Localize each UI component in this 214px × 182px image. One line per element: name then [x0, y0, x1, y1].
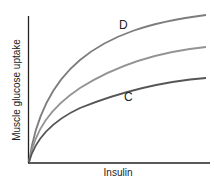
curve-d: [29, 15, 206, 162]
curve-d-label: D: [119, 18, 128, 32]
x-axis-label: Insulin: [104, 167, 133, 178]
y-axis-label: Muscle glucose uptake: [11, 39, 22, 141]
curve-middle: [29, 47, 206, 162]
curve-c-label: C: [124, 90, 133, 104]
chart: D C Insulin Muscle glucose uptake: [0, 0, 214, 182]
curve-c: [29, 78, 206, 162]
